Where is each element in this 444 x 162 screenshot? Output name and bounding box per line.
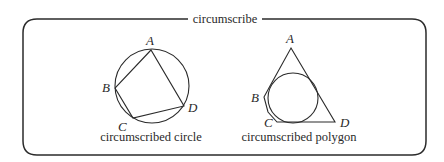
vertex-label-a: A	[285, 31, 294, 46]
circumscribe-figure: circumscribe A B C D circumscribed circl…	[0, 0, 444, 162]
caption-circumscribed-polygon: circumscribed polygon	[242, 130, 358, 144]
caption-circumscribed-circle: circumscribed circle	[100, 130, 202, 144]
circumscribing-polygon	[264, 48, 335, 122]
vertex-label-d: D	[187, 100, 198, 115]
circumscribing-circle	[115, 49, 189, 123]
vertex-label-b: B	[251, 90, 259, 105]
vertex-label-d: D	[339, 115, 350, 130]
figure-title: circumscribe	[193, 12, 258, 26]
vertex-label-c: C	[264, 115, 273, 130]
vertex-label-b: B	[102, 80, 110, 95]
circumscribed-polygon-diagram: A B C D circumscribed polygon	[242, 31, 358, 144]
vertex-label-a: A	[145, 33, 154, 48]
frame-border	[23, 19, 426, 155]
circumscribed-circle-diagram: A B C D circumscribed circle	[100, 33, 202, 144]
